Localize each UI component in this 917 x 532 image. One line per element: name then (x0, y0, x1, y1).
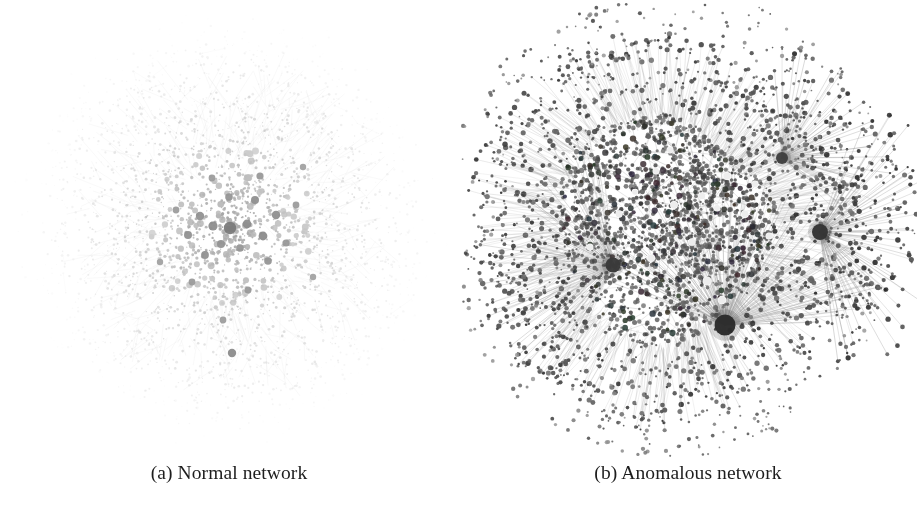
caption-row: (a) Normal network (b) Anomalous network (0, 458, 917, 532)
panel-anomalous-network (459, 0, 917, 460)
caption-anomalous-network: (b) Anomalous network (459, 458, 917, 488)
panel-normal-network (0, 0, 458, 460)
network-comparison-figure: (a) Normal network (b) Anomalous network (0, 0, 917, 532)
anomalous-network-graph (459, 0, 917, 460)
caption-normal-network: (a) Normal network (0, 458, 458, 488)
normal-network-graph (0, 0, 458, 460)
